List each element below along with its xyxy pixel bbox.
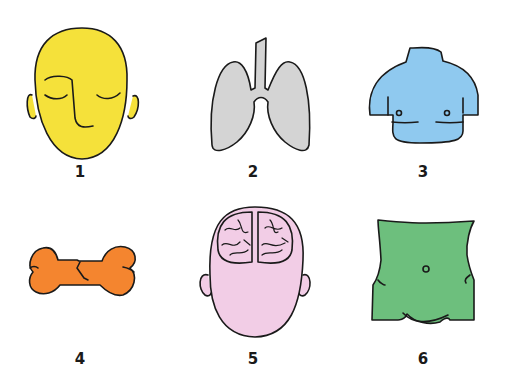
abdomen-icon	[372, 220, 474, 323]
abdomen-illustration	[0, 0, 509, 380]
panel-number-6: 6	[413, 350, 433, 368]
